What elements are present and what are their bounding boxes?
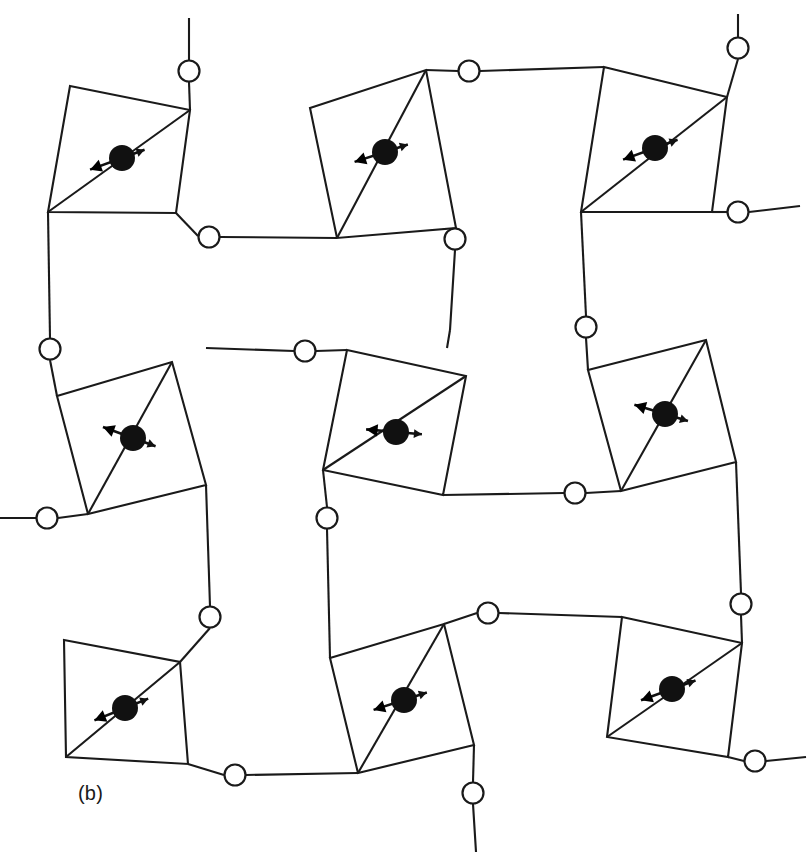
unit-r2c3-center-atom xyxy=(652,401,678,427)
unit-r2c1-center-atom xyxy=(120,425,146,451)
bridge-left-mid xyxy=(37,508,58,529)
link-innerl-to-r1c2 xyxy=(220,237,337,238)
unit-r2c2-center-atom xyxy=(383,419,409,445)
bridge-r2-top-right xyxy=(576,317,597,338)
panel-label: (b) xyxy=(78,782,103,804)
unit-r1c3-center-atom xyxy=(642,135,668,161)
bridge-bot-left xyxy=(225,765,246,786)
bridge-r1-inner-l xyxy=(199,227,220,248)
unit-r1c1-center-atom xyxy=(109,145,135,171)
bridge-left-upper xyxy=(40,339,61,360)
bridge-right-upper xyxy=(728,202,749,223)
unit-r3c2-center-atom xyxy=(391,687,417,713)
link-r1c2-to-topmid xyxy=(426,70,458,71)
unit-r1c2-center-atom xyxy=(372,139,398,165)
bridge-bot-mid xyxy=(463,783,484,804)
bridge-r3-top-mid xyxy=(478,603,499,624)
link-r3c2-to-botmid xyxy=(473,745,474,782)
bridge-top-mid xyxy=(459,61,480,82)
bridge-r1-inner-r xyxy=(445,229,466,250)
bridge-r2-top-mid xyxy=(295,341,316,362)
structure-diagram: (b) xyxy=(0,0,808,861)
link-r2topmid-to-r2c2 xyxy=(316,350,347,351)
bridge-r3-top-left xyxy=(200,607,221,628)
bridge-r3-top-right xyxy=(731,594,752,615)
bridge-r2-bot-mid xyxy=(317,508,338,529)
figure-container: (b) xyxy=(0,0,808,861)
link-r1c1-to-topbridge xyxy=(189,82,190,110)
bridge-top-left xyxy=(179,61,200,82)
link-r3topright-to-unit xyxy=(741,615,742,643)
bridge-top-right xyxy=(728,38,749,59)
bridge-r2-bot-right xyxy=(565,483,586,504)
bridge-bot-right xyxy=(745,751,766,772)
unit-r3c1-center-atom xyxy=(112,695,138,721)
unit-r3c3-center-atom xyxy=(659,676,685,702)
